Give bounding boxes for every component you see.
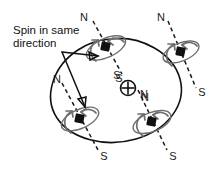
caption-pointer-lower-head xyxy=(78,97,86,107)
magnet-bottom-right: N S xyxy=(130,88,177,162)
magnet-bottom-left-south-label: S xyxy=(100,150,107,162)
magnet-top-right-node xyxy=(175,46,186,57)
caption-line-1: Spin in same xyxy=(13,24,79,36)
magnet-bottom-left-north-label: N xyxy=(53,73,61,85)
magnet-top-left: N S xyxy=(80,11,129,84)
magnet-bottom-left-node xyxy=(74,113,85,124)
magnet-bottom-left: N S xyxy=(53,73,108,162)
magnet-top-right-north-label: N xyxy=(157,11,165,23)
center-magnet-north-label: N xyxy=(141,91,149,103)
caption-line-2: direction xyxy=(13,37,56,49)
center-magnet-south-label: S xyxy=(113,69,120,81)
magnet-top-left-node xyxy=(100,41,111,52)
magnet-spin-diagram: N S N S N S xyxy=(0,0,216,170)
magnet-bottom-right-south-label: S xyxy=(169,150,176,162)
magnet-bottom-right-node xyxy=(146,116,157,127)
magnet-top-right-south-label: S xyxy=(198,86,205,98)
diagram-canvas: N S N S N S xyxy=(0,0,216,170)
caption-block: Spin in same direction xyxy=(13,24,79,49)
magnet-top-left-north-label: N xyxy=(80,11,88,23)
